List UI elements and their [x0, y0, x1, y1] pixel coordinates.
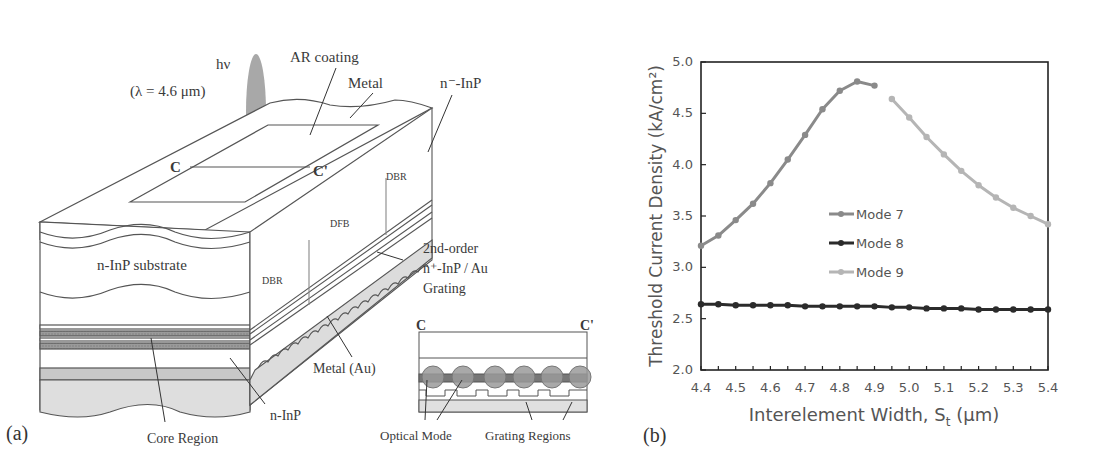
core-region-label: Core Region [147, 431, 218, 446]
data-point [993, 306, 999, 312]
data-point [871, 303, 877, 309]
chart-legend: Mode 7Mode 8Mode 9 [829, 207, 904, 280]
data-point [837, 303, 843, 309]
x-tick-label: 5.3 [1003, 380, 1024, 395]
data-point [906, 114, 912, 120]
grating-label-line3: Grating [423, 281, 466, 296]
x-tick-label: 4.4 [691, 380, 712, 395]
data-point [975, 182, 981, 188]
x-tick-label: 5.2 [968, 380, 989, 395]
data-point [750, 200, 756, 206]
series-mode-7 [698, 78, 878, 249]
data-point [1045, 221, 1051, 227]
data-point [767, 180, 773, 186]
panel-a-label: (a) [6, 422, 28, 445]
data-point [906, 304, 912, 310]
photon-label: hν [216, 56, 231, 72]
data-point [733, 302, 739, 308]
device-schematic: hν (λ = 4.6 μm) AR coating Metal n⁻-InP … [0, 0, 640, 475]
section-c-label: C [170, 159, 181, 175]
data-point [1010, 306, 1016, 312]
legend-label: Mode 7 [856, 207, 904, 222]
x-tick-label: 4.7 [795, 380, 816, 395]
ar-coating-label: AR coating [290, 49, 359, 65]
data-point [941, 151, 947, 157]
x-axis-label: Interelement Width, St (μm) [749, 404, 999, 429]
data-point [871, 82, 877, 88]
substrate-label: n-InP substrate [97, 257, 187, 273]
data-point [750, 302, 756, 308]
data-point [715, 232, 721, 238]
data-point [923, 134, 929, 140]
y-tick-label: 2.0 [672, 362, 693, 377]
x-tick-label: 4.6 [760, 380, 781, 395]
grating-label-line2: n⁺-InP / Au [423, 261, 488, 276]
data-point [889, 304, 895, 310]
grating-regions-label: Grating Regions [485, 428, 571, 443]
cross-section-inset [419, 332, 591, 420]
data-point [819, 303, 825, 309]
data-point [837, 88, 843, 94]
dbr-left-label: DBR [262, 275, 283, 286]
data-point [698, 301, 704, 307]
legend-label: Mode 8 [856, 236, 904, 251]
series-mode-9 [889, 96, 1052, 228]
data-point [1045, 306, 1051, 312]
x-tick-label: 5.0 [899, 380, 920, 395]
x-tick-label: 4.9 [864, 380, 885, 395]
data-point [802, 303, 808, 309]
data-point [733, 217, 739, 223]
data-point [854, 78, 860, 84]
data-point [785, 302, 791, 308]
data-point [1027, 306, 1033, 312]
y-tick-label: 5.0 [672, 54, 693, 69]
dfb-label: DFB [330, 218, 350, 229]
data-point [819, 106, 825, 112]
data-point [802, 132, 808, 138]
x-tick-label: 4.8 [829, 380, 850, 395]
y-axis-label: Threshold Current Density (kA/cm²) [646, 65, 666, 368]
data-point [958, 168, 964, 174]
y-tick-label: 2.5 [672, 311, 693, 326]
grating-label-line1: 2nd-order [423, 241, 479, 256]
data-point [715, 301, 721, 307]
wavelength-label: (λ = 4.6 μm) [130, 83, 205, 100]
inset-c-label: C [416, 318, 426, 333]
section-c-prime-label: C' [313, 163, 328, 179]
x-tick-label: 5.4 [1038, 380, 1059, 395]
y-tick-label: 3.5 [672, 208, 693, 223]
data-point [975, 306, 981, 312]
data-point [889, 96, 895, 102]
data-point [698, 243, 704, 249]
metal-top-label: Metal [348, 75, 383, 91]
data-point [941, 305, 947, 311]
data-point [1027, 213, 1033, 219]
y-tick-label: 3.0 [672, 259, 693, 274]
y-tick-label: 4.0 [672, 157, 693, 172]
device-front-face [40, 222, 250, 417]
legend-label: Mode 9 [856, 265, 904, 280]
n-minus-inp-label: n⁻-InP [440, 75, 481, 91]
x-tick-label: 4.5 [725, 380, 746, 395]
data-point [923, 305, 929, 311]
data-point [1010, 205, 1016, 211]
dbr-right-label: DBR [386, 171, 407, 182]
x-tick-label: 5.1 [934, 380, 955, 395]
threshold-current-chart: 4.44.54.64.74.84.95.05.15.25.35.42.02.53… [640, 0, 1096, 475]
data-point [767, 302, 773, 308]
data-point [785, 156, 791, 162]
n-inp-label: n-InP [270, 408, 301, 423]
series-mode-8 [698, 301, 1051, 313]
metal-au-label: Metal (Au) [313, 361, 376, 377]
y-tick-label: 4.5 [672, 105, 693, 120]
data-point [854, 303, 860, 309]
data-point [958, 305, 964, 311]
data-point [993, 194, 999, 200]
inset-c-prime-label: C' [580, 318, 594, 333]
optical-mode-label: Optical Mode [380, 428, 452, 443]
